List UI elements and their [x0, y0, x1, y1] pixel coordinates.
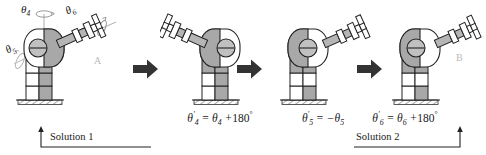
panel-solution-1: θ4 θ5 θ6 A: [6, 0, 126, 125]
transition-arrow-1: [133, 58, 159, 80]
point-label-a: A: [94, 55, 101, 66]
label-theta4: θ4: [21, 3, 30, 18]
wrist-housing: [288, 29, 328, 67]
solution-1-label: Solution 1: [50, 131, 93, 142]
rotation-arrow-theta4: [36, 11, 54, 17]
robot-illustration-1: [6, 0, 126, 125]
wrist-housing: [400, 29, 440, 67]
wrist-housing: [24, 29, 64, 67]
transition-arrow-2: [237, 58, 263, 80]
point-label-b: B: [456, 52, 463, 63]
solution-2-arrowhead: [457, 126, 463, 132]
ground-hatch: [282, 100, 326, 105]
ground-hatch: [194, 100, 238, 105]
ground-hatch: [18, 100, 62, 105]
solution-1-arrowhead: [38, 126, 44, 132]
ground-hatch: [394, 100, 438, 105]
wrist-housing: [200, 29, 240, 67]
solution-2-label: Solution 2: [356, 131, 399, 142]
panel-solution-2: B: [372, 0, 486, 125]
robot-illustration-4: [372, 0, 486, 125]
